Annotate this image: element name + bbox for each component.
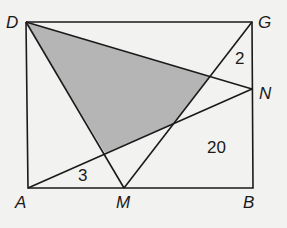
area-label-2: 2 [235,49,244,68]
point-label-G: G [258,13,271,32]
shaded-region [26,22,210,153]
point-label-N: N [259,84,272,103]
area-label-20: 20 [207,138,226,157]
point-label-A: A [14,193,26,212]
geometry-diagram: D G N A M B 2 20 3 [0,0,287,228]
point-label-B: B [243,193,254,212]
area-label-3: 3 [78,166,87,185]
point-label-M: M [116,193,131,212]
point-label-D: D [6,13,18,32]
